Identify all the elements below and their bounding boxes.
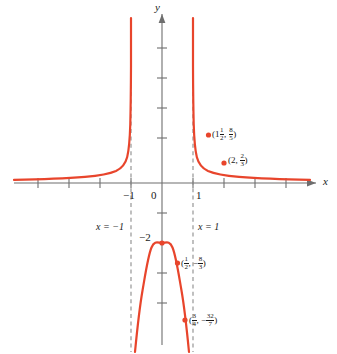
plot-point-p3 <box>175 260 180 265</box>
coordinate-plot <box>0 0 337 354</box>
curve-right-branch <box>193 18 310 180</box>
plot-point-p4 <box>182 317 187 322</box>
asymptote-left-eq: = <box>103 221 112 232</box>
x-tick-label-zero: 0 <box>151 190 157 201</box>
plot-point-vertex <box>159 240 164 245</box>
point-label-p2: (2, 23) <box>228 153 248 168</box>
x-tick-label-neg1: −1 <box>123 190 135 201</box>
asymptote-label-left: x = −1 <box>96 222 124 232</box>
asymptote-left-rhs: −1 <box>112 221 124 232</box>
curve-left-branch <box>14 18 131 180</box>
y-axis <box>157 14 167 345</box>
graph-figure: x y −1 0 1 −2 x = −1 x = 1 (112, 85) (2,… <box>0 0 337 354</box>
point-label-p1: (112, 85) <box>212 127 236 142</box>
x-tick-label-pos1: 1 <box>196 190 202 201</box>
asymptote-label-right: x = 1 <box>198 222 219 232</box>
point-label-p3: (12, −83) <box>181 256 206 271</box>
point-label-p4: (34, −327) <box>189 313 217 328</box>
asymptote-right-eq: = <box>205 221 214 232</box>
asymptote-right-rhs: 1 <box>214 221 219 232</box>
plot-point-p1 <box>206 132 211 137</box>
y-axis-label: y <box>155 2 160 13</box>
asymptote-left-lhs: x <box>96 221 100 232</box>
y-tick-label-neg2: −2 <box>139 232 151 243</box>
x-axis-label: x <box>323 176 328 187</box>
asymptote-right-lhs: x <box>198 221 202 232</box>
plot-point-p2 <box>221 160 226 165</box>
